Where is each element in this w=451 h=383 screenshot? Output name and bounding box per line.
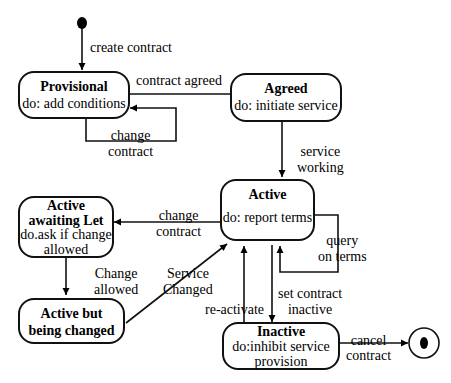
state-activity-line-1: do.ask if change [20, 228, 112, 243]
state-activity-line-1: do:inhibit service [224, 339, 338, 354]
state-activity-line-2: allowed [20, 243, 112, 258]
state-name-line-1: Active but [20, 305, 123, 322]
state-active-being-changed[interactable]: Active but being changed [18, 298, 125, 344]
state-activity: do: initiate service [232, 97, 340, 114]
state-name-line-1: Active [20, 199, 112, 214]
state-name: Provisional [20, 78, 128, 95]
state-activity-line-2: provision [224, 354, 338, 369]
label-service-working: service working [297, 144, 344, 176]
label-re-activate: re-activate [205, 302, 264, 318]
state-active[interactable]: Active do: report terms [220, 179, 315, 241]
label-query-on-terms: query on terms [318, 233, 367, 265]
state-name: Active [222, 186, 313, 203]
label-contract-agreed: contract agreed [136, 73, 222, 89]
label-change-contract: change contract [156, 208, 201, 240]
state-active-awaiting-let[interactable]: Active awaiting Let do.ask if change all… [18, 196, 114, 258]
state-provisional[interactable]: Provisional do: add conditions [18, 71, 130, 119]
label-set-contract-inactive: set contract inactive [278, 286, 342, 318]
state-activity: do: add conditions [20, 95, 128, 112]
state-name-line-2: awaiting Let [20, 214, 112, 229]
state-name: Inactive [224, 324, 338, 339]
label-create-contract: create contract [90, 40, 172, 56]
state-name: Agreed [232, 80, 340, 97]
state-inactive[interactable]: Inactive do:inhibit service provision [222, 322, 340, 370]
state-name-line-2: being changed [20, 322, 123, 339]
state-agreed[interactable]: Agreed do: initiate service [230, 73, 342, 122]
state-activity: do: report terms [222, 209, 313, 226]
label-service-changed: Service Changed [163, 266, 213, 298]
label-change-contract-self: change contract [108, 128, 153, 160]
label-change-allowed: Change allowed [94, 266, 138, 298]
initial-state [77, 17, 87, 29]
label-cancel-contract: cancel contract [346, 333, 391, 363]
